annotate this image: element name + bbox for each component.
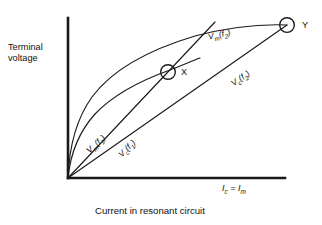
diagram-svg bbox=[0, 0, 322, 225]
x-axis-annotation: Ic = Im bbox=[222, 183, 246, 195]
y-axis-title-line1: Terminal bbox=[8, 42, 43, 53]
annot-sub-m: m bbox=[241, 188, 246, 195]
point-label-y: Y bbox=[302, 20, 308, 30]
y-axis-title-line2: voltage bbox=[8, 53, 43, 64]
annot-equals: = bbox=[228, 183, 238, 193]
point-label-x: X bbox=[181, 67, 187, 77]
figure-canvas: Terminal voltage Current in resonant cir… bbox=[0, 0, 322, 225]
x-axis-caption: Current in resonant circuit bbox=[95, 205, 205, 216]
y-axis-title: Terminal voltage bbox=[8, 42, 43, 63]
line-vc-f2 bbox=[68, 25, 287, 178]
